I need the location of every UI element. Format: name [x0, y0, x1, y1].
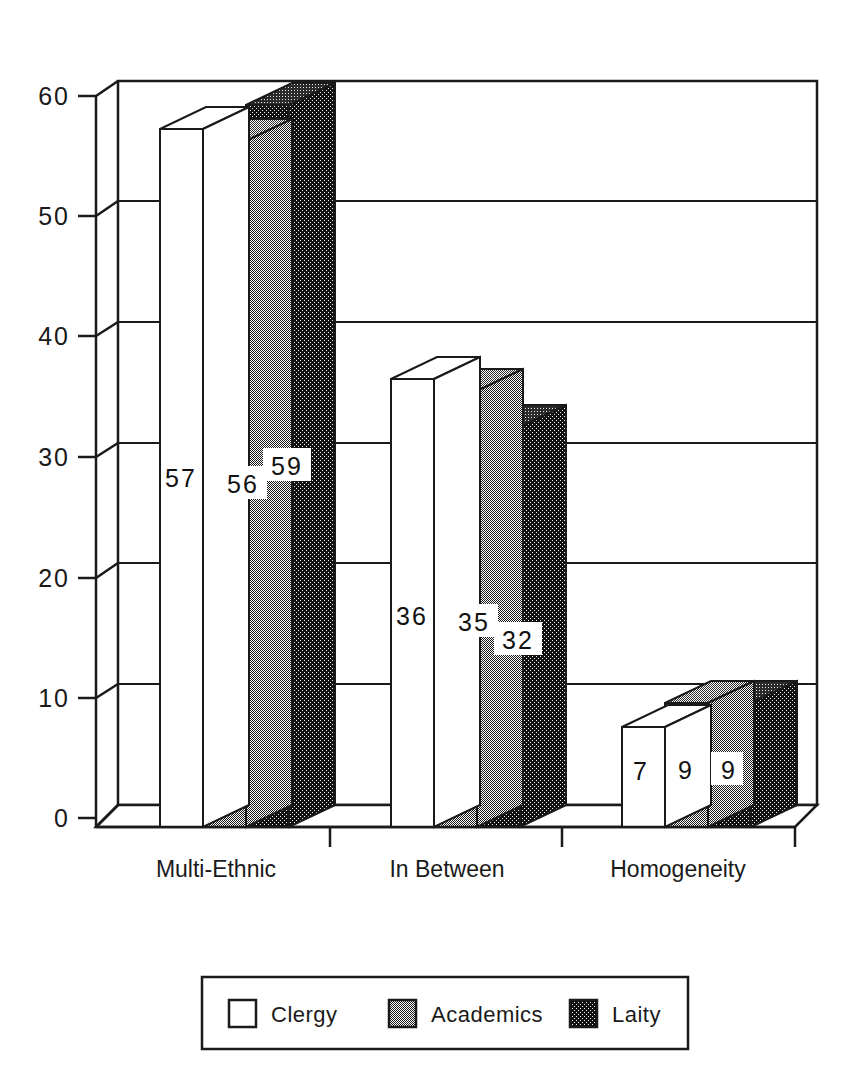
y-tick-label-50: 50 — [38, 202, 70, 230]
bar-value-multi-ethnic-academics: 56 — [227, 470, 259, 498]
bar-chart-3d: 60 50 40 30 20 10 0 — [0, 0, 863, 1069]
legend-label-academics: Academics — [431, 1002, 543, 1027]
y-tick-label-60: 60 — [38, 82, 70, 110]
category-label-homogeneity: Homogeneity — [610, 856, 746, 882]
bar-value-in-between-academics: 35 — [458, 608, 490, 636]
x-axis-labels: Multi-Ethnic In Between Homogeneity — [156, 856, 746, 882]
bar-value-homogeneity-clergy: 7 — [633, 757, 649, 785]
y-tick-label-20: 20 — [38, 564, 70, 592]
bar-value-multi-ethnic-clergy: 57 — [165, 464, 197, 492]
legend-swatch-academics — [389, 1000, 416, 1027]
bar-in-between-clergy[interactable] — [391, 357, 480, 827]
category-label-in-between: In Between — [389, 856, 504, 882]
bar-group-in-between: 36 35 32 — [391, 357, 566, 827]
chart-container: 60 50 40 30 20 10 0 — [0, 0, 863, 1069]
legend-swatch-laity — [570, 1000, 597, 1027]
bar-value-in-between-laity: 32 — [502, 626, 534, 654]
category-label-multi-ethnic: Multi-Ethnic — [156, 856, 276, 882]
bar-value-in-between-clergy: 36 — [396, 602, 428, 630]
bar-value-homogeneity-laity: 9 — [721, 756, 737, 784]
legend-label-laity: Laity — [612, 1002, 661, 1027]
y-tick-label-0: 0 — [54, 804, 70, 832]
legend-swatch-clergy — [229, 1000, 256, 1027]
y-tick-label-10: 10 — [38, 684, 70, 712]
bar-group-multi-ethnic: 57 56 59 — [160, 83, 335, 827]
legend: Clergy Academics Laity — [202, 977, 688, 1049]
legend-label-clergy: Clergy — [271, 1002, 338, 1027]
y-tick-label-30: 30 — [38, 443, 70, 471]
legend-item-laity[interactable]: Laity — [570, 1000, 661, 1027]
legend-item-clergy[interactable]: Clergy — [229, 1000, 338, 1027]
bar-value-multi-ethnic-laity: 59 — [271, 452, 303, 480]
bar-value-homogeneity-academics: 9 — [678, 756, 694, 784]
y-tick-label-40: 40 — [38, 322, 70, 350]
legend-item-academics[interactable]: Academics — [389, 1000, 543, 1027]
